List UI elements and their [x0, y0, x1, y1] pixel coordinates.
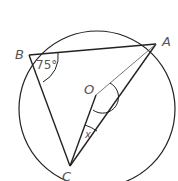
angle-label-C: x [84, 129, 91, 140]
angle-arc-O [93, 83, 119, 113]
segment-CA [70, 44, 156, 166]
label-A: A [161, 34, 171, 49]
angle-label-B: 75° [36, 58, 57, 72]
segment-BA [29, 44, 156, 55]
label-O: O [84, 82, 94, 97]
circle-diagram: B A C O 75° x [0, 0, 178, 181]
segment-OC [70, 95, 96, 166]
label-B: B [15, 47, 24, 62]
label-C: C [62, 169, 72, 181]
